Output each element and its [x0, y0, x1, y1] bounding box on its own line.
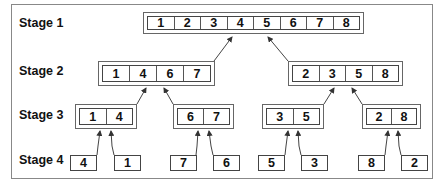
merge-arrows	[0, 0, 442, 190]
